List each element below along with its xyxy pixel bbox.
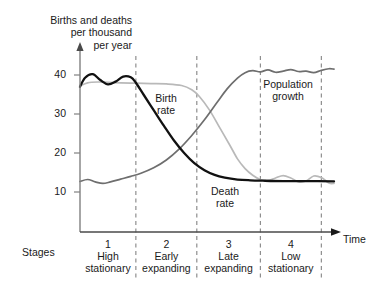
stages-row-label: Stages bbox=[22, 246, 55, 258]
stage-number: 2 bbox=[136, 238, 197, 250]
stage-label-2: 2Earlyexpanding bbox=[136, 238, 197, 274]
y-axis-ticks bbox=[74, 75, 80, 192]
stage-name-line1: Early bbox=[136, 250, 197, 262]
stage-number: 1 bbox=[80, 238, 136, 250]
stage-name-line1: Late bbox=[197, 250, 261, 262]
death-rate-label: Death rate bbox=[200, 185, 250, 210]
stage-name-line2: stationary bbox=[80, 262, 136, 274]
x-axis-label: Time bbox=[343, 233, 366, 245]
y-axis-tick-label: 10 bbox=[40, 185, 66, 197]
stage-name-line2: stationary bbox=[260, 262, 321, 274]
y-axis-tick-label: 30 bbox=[40, 107, 66, 119]
y-axis-tick-label: 40 bbox=[40, 68, 66, 80]
stage-label-1: 1Highstationary bbox=[80, 238, 136, 274]
stage-name-line2: expanding bbox=[136, 262, 197, 274]
demographic-transition-chart: Births and deaths per thousand per year … bbox=[0, 0, 372, 292]
stage-label-4: 4Lowstationary bbox=[260, 238, 321, 274]
birth-rate-label: Birth rate bbox=[141, 92, 191, 117]
stage-number: 3 bbox=[197, 238, 261, 250]
stage-name-line1: Low bbox=[260, 250, 321, 262]
stage-name-line2: expanding bbox=[197, 262, 261, 274]
population-growth-label: Population growth bbox=[255, 78, 321, 103]
y-axis-title: Births and deaths per thousand per year bbox=[4, 14, 132, 51]
stage-number: 4 bbox=[260, 238, 321, 250]
stage-name-line1: High bbox=[80, 250, 136, 262]
y-axis-tick-label: 20 bbox=[40, 146, 66, 158]
stage-label-3: 3Lateexpanding bbox=[197, 238, 261, 274]
x-axis-arrowhead bbox=[331, 228, 341, 235]
